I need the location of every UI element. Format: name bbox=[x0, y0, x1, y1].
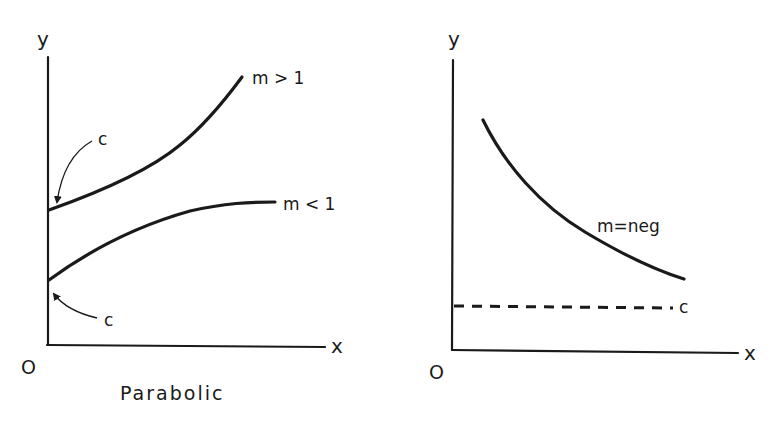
curve-label-m-gt-1: m > 1 bbox=[252, 68, 304, 88]
curve-label-m-neg: m=neg bbox=[597, 216, 660, 236]
intercept-label-upper: c bbox=[98, 129, 107, 149]
asymptote-label-c: c bbox=[679, 297, 688, 317]
right-y-axis-label: y bbox=[448, 27, 460, 51]
intercept-arrow-upper bbox=[57, 141, 92, 202]
right-y-axis bbox=[452, 60, 453, 350]
curve-m-gt-1 bbox=[49, 77, 242, 210]
curve-m-neg bbox=[483, 120, 684, 279]
intercept-arrow-lower bbox=[54, 294, 97, 318]
left-y-axis-label: y bbox=[37, 27, 49, 51]
right-origin-label: O bbox=[429, 361, 444, 383]
curve-label-m-lt-1: m < 1 bbox=[283, 194, 335, 214]
left-caption: Parabolic bbox=[120, 382, 224, 404]
right-panel: y x O m=neg c bbox=[429, 27, 756, 383]
left-panel: y x O m > 1 m < 1 c c Parabolic bbox=[21, 27, 343, 404]
curve-m-lt-1 bbox=[49, 202, 275, 280]
left-x-axis-label: x bbox=[331, 334, 343, 358]
left-origin-label: O bbox=[21, 356, 36, 378]
right-x-axis bbox=[452, 350, 738, 353]
left-x-axis bbox=[47, 345, 325, 347]
intercept-label-lower: c bbox=[104, 310, 113, 330]
asymptote-line-c bbox=[454, 306, 673, 308]
right-x-axis-label: x bbox=[744, 341, 756, 365]
parabolic-diagram: y x O m > 1 m < 1 c c Parabolic y x O m=… bbox=[0, 0, 780, 430]
